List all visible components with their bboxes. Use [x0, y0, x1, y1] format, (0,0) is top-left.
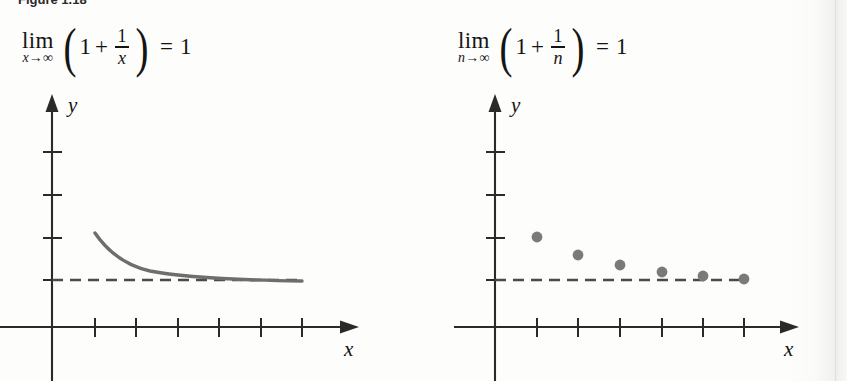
panel-continuous: lim x→∞ ( 1 + 1 x ) = 1 [0, 0, 420, 381]
data-point [573, 250, 584, 261]
data-point [657, 267, 668, 278]
x-axis-label: x [343, 337, 354, 361]
graph-discrete: y x [420, 0, 847, 381]
data-point [532, 232, 543, 243]
data-point [698, 271, 709, 282]
y-axis-label: y [509, 93, 521, 117]
point-series [532, 232, 750, 285]
page-edge-line [835, 0, 836, 381]
curve-series [95, 233, 302, 281]
graph-continuous: y x [0, 0, 420, 381]
y-axis-arrowhead-icon [489, 94, 502, 112]
data-point [739, 274, 750, 285]
x-axis-arrowhead-icon [780, 321, 799, 334]
y-axis-label: y [66, 93, 78, 117]
x-axis-arrowhead-icon [340, 321, 359, 334]
figure-page: Figure 1.18 lim x→∞ ( 1 + 1 x ) = 1 [0, 0, 847, 381]
y-axis-arrowhead-icon [46, 94, 59, 112]
panel-discrete: lim n→∞ ( 1 + 1 n ) = 1 [420, 0, 847, 381]
x-axis-label: x [783, 337, 794, 361]
data-point [615, 260, 626, 271]
